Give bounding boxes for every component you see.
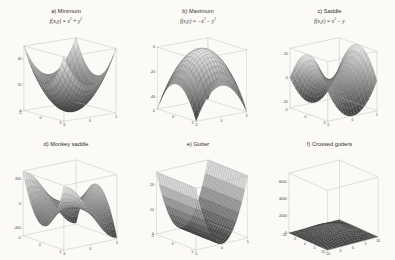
surface-plot-b: -505-505-40-200 xyxy=(132,26,264,131)
axis-tick-label: 0 xyxy=(172,242,174,246)
axis-tick-label: -40 xyxy=(150,94,155,98)
axis-tick-label: 0 xyxy=(220,118,222,122)
axis-tick-label: 5 xyxy=(192,121,194,125)
surface-mesh-c xyxy=(290,44,377,116)
panel-f-title: f) Crossed gutters xyxy=(307,140,352,148)
axis-tick-label: 10 xyxy=(376,239,380,243)
surface-facet xyxy=(27,52,32,65)
axis-tick-label: 5 xyxy=(60,121,62,125)
axis-tick-label: 0 xyxy=(285,231,287,235)
axis-tick-label: 5 xyxy=(323,121,325,125)
axis-tick-label: 0 xyxy=(19,201,21,205)
axis-tick-label: -5 xyxy=(326,123,329,127)
axis-tick-label: -5 xyxy=(62,252,65,256)
axis-tick-label: 0 xyxy=(286,76,288,80)
axis-tick-label: 0 xyxy=(172,115,174,119)
surface-plot-f: -10-50510-10-505100200040006000 xyxy=(264,148,395,260)
axis-tick-label: 0 xyxy=(352,245,354,249)
axis-tick-label: 20 xyxy=(150,183,154,187)
axis-tick-label: 20 xyxy=(18,82,22,86)
panel-b-title: b) Maximum xyxy=(182,7,213,15)
panel-a-equation: f(x,y) = x2 + y2 xyxy=(50,17,82,25)
axis-tick-label: 0 xyxy=(39,243,41,247)
axis-tick-label: 0 xyxy=(89,246,91,250)
panel-f: f) Crossed gutters -10-50510-10-50510020… xyxy=(264,131,395,260)
panel-e-axes: -505-50501020 xyxy=(132,148,264,260)
axis-tick-label: -20 xyxy=(150,70,155,74)
panel-a-equation-text: f(x,y) = x2 + y2 xyxy=(50,18,82,24)
axis-tick-label: 40 xyxy=(18,57,22,61)
surface-mesh-b xyxy=(157,48,246,121)
axis-tick-label: 0 xyxy=(304,242,306,246)
panel-c-title: c) Saddle xyxy=(317,7,341,15)
axis-tick-label: 20 xyxy=(284,52,288,56)
axis-tick-label: -5 xyxy=(339,249,342,253)
surface-facet xyxy=(105,62,110,74)
panel-d: d) Monkey saddle -505-505-2000200 xyxy=(0,131,132,260)
panel-e: e) Gutter -505-50501020 xyxy=(132,131,264,260)
axis-tick-label: -5 xyxy=(18,236,21,240)
axis-tick-label: 200 xyxy=(15,177,21,181)
panel-a: a) Minimum f(x,y) = x2 + y2 -505-5050204… xyxy=(0,0,132,131)
axis-tick-label: 5 xyxy=(247,240,249,244)
surface-facet xyxy=(242,98,247,111)
panel-d-axes: -505-505-2000200 xyxy=(0,148,132,260)
surface-facet xyxy=(239,93,244,105)
axis-tick-label: -200 xyxy=(14,226,21,230)
panel-d-title: d) Monkey saddle xyxy=(44,140,89,148)
axis-tick-label: 5 xyxy=(246,113,248,117)
surface-mesh-e xyxy=(156,160,247,244)
surface-plot-figure: a) Minimum f(x,y) = x2 + y2 -505-5050204… xyxy=(0,0,395,260)
axis-tick-label: 5 xyxy=(376,112,378,116)
panel-f-axes: -10-50510-10-505100200040006000 xyxy=(264,148,395,260)
axis-tick-label: 5 xyxy=(192,250,194,254)
axis-tick-label: 2000 xyxy=(279,214,287,218)
panel-c: c) Saddle f(x,y) = x2 − y -505-505-20020 xyxy=(264,0,395,131)
surface-facet xyxy=(24,46,29,60)
axis-tick-label: 0 xyxy=(20,108,22,112)
axis-tick-label: 4000 xyxy=(279,197,287,201)
axis-tick-label: -5 xyxy=(285,107,288,111)
axis-tick-label: 5 xyxy=(365,242,367,246)
axis-tick-label: -20 xyxy=(283,99,288,103)
axis-tick-label: 5 xyxy=(59,250,61,254)
axis-tick-label: 0 xyxy=(351,118,353,122)
axis-tick-label: -5 xyxy=(194,252,197,256)
axis-tick-label: -10 xyxy=(325,252,330,256)
panel-c-axes: -505-505-20020 xyxy=(264,26,395,131)
panel-a-title: a) Minimum xyxy=(51,7,81,15)
axis-tick-label: 0 xyxy=(305,114,307,118)
axis-tick-label: 0 xyxy=(153,45,155,49)
surface-plot-d: -505-505-2000200 xyxy=(0,148,132,260)
axis-tick-label: 10 xyxy=(321,250,325,254)
axis-tick-label: -5 xyxy=(62,123,65,127)
surface-plot-a: -505-50502040 xyxy=(0,26,132,131)
panel-e-title: e) Gutter xyxy=(187,140,210,148)
surface-mesh-a xyxy=(24,37,116,111)
axis-tick-label: 0 xyxy=(221,246,223,250)
panel-c-equation: f(x,y) = x2 − y xyxy=(314,17,345,25)
panel-b-axes: -505-505-40-200 xyxy=(132,26,264,131)
axis-tick-label: 6000 xyxy=(279,180,287,184)
axis-tick-label: 0 xyxy=(152,232,154,236)
axis-tick-label: 5 xyxy=(314,246,316,250)
axis-tick-label: 0 xyxy=(89,119,91,123)
axis-tick-label: 5 xyxy=(116,241,118,245)
surface-plot-c: -505-505-20020 xyxy=(264,26,395,131)
panel-c-equation-text: f(x,y) = x2 − y xyxy=(314,18,345,24)
axis-tick-label: 5 xyxy=(115,114,117,118)
surface-mesh-d xyxy=(23,172,117,238)
panel-b-equation: f(x,y) = −x2 − y2 xyxy=(180,17,216,25)
axis-tick-label: 0 xyxy=(40,116,42,120)
axis-tick-label: -5 xyxy=(195,123,198,127)
panel-a-axes: -505-50502040 xyxy=(0,26,132,131)
panel-b-equation-text: f(x,y) = −x2 − y2 xyxy=(180,18,216,24)
panel-b: b) Maximum f(x,y) = −x2 − y2 -505-505-40… xyxy=(132,0,264,131)
surface-plot-e: -505-50501020 xyxy=(132,148,264,260)
axis-tick-label: -5 xyxy=(293,237,296,241)
axis-tick-label: 10 xyxy=(150,207,154,211)
axis-tick-label: -5 xyxy=(152,109,155,113)
